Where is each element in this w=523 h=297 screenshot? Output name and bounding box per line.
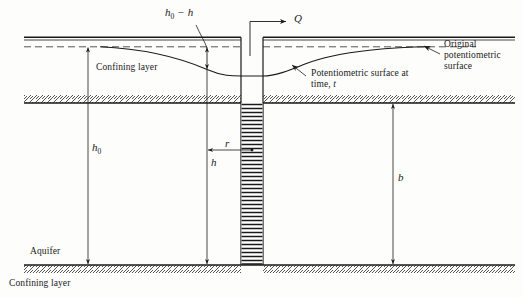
- drawdown-label-suffix: − h: [174, 6, 193, 18]
- figure-container: h0 − h Q Confining layer Potentiometric …: [0, 0, 523, 297]
- h0-label: h0: [92, 142, 101, 157]
- drawdown-label: h0 − h: [165, 7, 193, 22]
- potentiometric-time-label: Potentiometric surface attime, t: [311, 68, 408, 90]
- discharge-label: Q: [294, 13, 302, 24]
- potentiometric-time-line2-prefix: time,: [311, 79, 333, 89]
- confining-layer-top-label: Confining layer: [96, 62, 157, 73]
- aquifer-label: Aquifer: [30, 246, 60, 257]
- discharge-pipe-q: [250, 22, 286, 57]
- confining-layer-bottom-hatch: [24, 265, 515, 273]
- original-surface-label: Originalpotentiometricsurface: [444, 39, 501, 72]
- h-label: h: [211, 157, 217, 168]
- confining-layer-bottom-label: Confining layer: [9, 278, 70, 289]
- h0-label-sub: 0: [98, 147, 102, 156]
- original-surface-line1: Original: [444, 39, 476, 49]
- ground-surface-line: [24, 37, 515, 40]
- potentiometric-time-line2-var: t: [333, 79, 336, 89]
- confining-layer-top-hatch: [24, 95, 515, 103]
- potentiometric-time-line1: Potentiometric surface at: [311, 68, 408, 78]
- original-surface-line2: potentiometric: [444, 50, 501, 60]
- well-screen: [242, 103, 263, 265]
- r-label: r: [225, 138, 229, 149]
- b-label: b: [398, 172, 404, 183]
- original-surface-line3: surface: [444, 61, 472, 71]
